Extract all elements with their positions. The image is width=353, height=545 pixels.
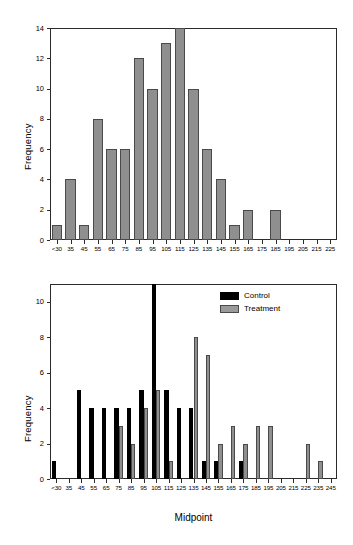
- x-tick-label: 225: [320, 245, 340, 252]
- x-tick-mark: [235, 240, 236, 244]
- bar-treatment-115: [169, 461, 173, 479]
- bar-treatment-75: [120, 149, 130, 240]
- legend: Control Treatment: [220, 291, 330, 321]
- x-tick-mark: [268, 479, 269, 483]
- x-tick-mark: [330, 240, 331, 244]
- y-tick-label: 12: [18, 54, 44, 63]
- y-tick-label: 14: [18, 24, 44, 33]
- x-tick-mark: [144, 479, 145, 483]
- y-tick-mark: [47, 119, 50, 120]
- x-tick-mark: [69, 479, 70, 483]
- legend-label-control: Control: [244, 291, 270, 300]
- x-tick-mark: [180, 240, 181, 244]
- y-tick-mark: [47, 337, 50, 338]
- bar-treatment-135: [194, 337, 198, 479]
- y-tick-label: 8: [18, 333, 44, 342]
- bar-treatment-95: [144, 408, 148, 479]
- bar-control-<30: [52, 461, 56, 479]
- x-tick-mark: [331, 479, 332, 483]
- y-tick-label: 10: [18, 84, 44, 93]
- x-tick-mark: [98, 240, 99, 244]
- x-tick-mark: [56, 479, 57, 483]
- x-tick-mark: [125, 240, 126, 244]
- bar-treatment-35: [65, 179, 75, 240]
- bar-treatment-145: [206, 355, 210, 479]
- top-bar-group: [50, 28, 337, 240]
- y-tick-mark: [47, 210, 50, 211]
- x-tick-mark: [231, 479, 232, 483]
- bar-control-125: [177, 408, 181, 479]
- bar-treatment-225: [306, 444, 310, 479]
- y-tick-mark: [47, 179, 50, 180]
- x-tick-mark: [166, 240, 167, 244]
- bar-treatment-45: [79, 225, 89, 240]
- bar-control-65: [102, 408, 106, 479]
- y-tick-mark: [47, 408, 50, 409]
- x-tick-mark: [81, 479, 82, 483]
- x-tick-mark: [306, 479, 307, 483]
- bar-treatment-95: [147, 89, 157, 240]
- bar-treatment-115: [175, 28, 185, 240]
- bottom-plot-area: Control Treatment: [50, 284, 337, 479]
- x-tick-mark: [303, 240, 304, 244]
- bar-treatment-235: [318, 461, 322, 479]
- legend-swatch-treatment-icon: [220, 305, 239, 313]
- y-tick-mark: [47, 28, 50, 29]
- bottom-x-axis-title: Midpoint: [50, 512, 337, 523]
- x-tick-mark: [248, 240, 249, 244]
- bar-treatment-135: [202, 149, 212, 240]
- bar-treatment-55: [93, 119, 103, 240]
- bar-control-45: [77, 390, 81, 479]
- y-tick-mark: [47, 373, 50, 374]
- bar-treatment-125: [188, 89, 198, 240]
- y-tick-mark: [47, 479, 50, 480]
- y-tick-label: 10: [18, 297, 44, 306]
- bar-treatment-165: [231, 426, 235, 479]
- y-tick-mark: [47, 89, 50, 90]
- x-tick-mark: [112, 240, 113, 244]
- bar-treatment-185: [256, 426, 260, 479]
- top-plot-area: [50, 28, 337, 240]
- y-tick-label: 6: [18, 368, 44, 377]
- y-tick-mark: [47, 149, 50, 150]
- bar-treatment-<30: [52, 225, 62, 240]
- y-tick-label: 4: [18, 175, 44, 184]
- x-tick-mark: [289, 240, 290, 244]
- x-tick-mark: [181, 479, 182, 483]
- x-tick-mark: [106, 479, 107, 483]
- bottom-panel: Frequency Control Treatment 0246810 <303…: [0, 272, 353, 545]
- x-tick-mark: [276, 240, 277, 244]
- x-tick-mark: [57, 240, 58, 244]
- bar-treatment-65: [106, 149, 116, 240]
- x-tick-mark: [156, 479, 157, 483]
- y-tick-mark: [47, 302, 50, 303]
- x-tick-mark: [281, 479, 282, 483]
- bar-treatment-85: [131, 444, 135, 479]
- x-tick-mark: [153, 240, 154, 244]
- bar-treatment-175: [243, 444, 247, 479]
- x-tick-mark: [169, 479, 170, 483]
- bar-control-55: [89, 408, 93, 479]
- x-tick-mark: [71, 240, 72, 244]
- bar-treatment-105: [161, 43, 171, 240]
- x-tick-mark: [194, 240, 195, 244]
- x-tick-mark: [218, 479, 219, 483]
- bottom-y-axis-title: Frequency: [22, 395, 33, 442]
- x-tick-mark: [293, 479, 294, 483]
- x-tick-mark: [207, 240, 208, 244]
- bar-treatment-195: [268, 426, 272, 479]
- legend-item-control: Control: [220, 291, 270, 300]
- bar-treatment-85: [134, 58, 144, 240]
- bar-treatment-145: [216, 179, 226, 240]
- bar-treatment-155: [218, 444, 222, 479]
- y-tick-mark: [47, 240, 50, 241]
- y-tick-mark: [47, 58, 50, 59]
- legend-label-treatment: Treatment: [244, 304, 280, 313]
- legend-item-treatment: Treatment: [220, 304, 280, 313]
- x-tick-mark: [139, 240, 140, 244]
- x-tick-mark: [194, 479, 195, 483]
- x-tick-mark: [243, 479, 244, 483]
- y-tick-label: 2: [18, 439, 44, 448]
- y-tick-label: 4: [18, 404, 44, 413]
- y-tick-mark: [47, 444, 50, 445]
